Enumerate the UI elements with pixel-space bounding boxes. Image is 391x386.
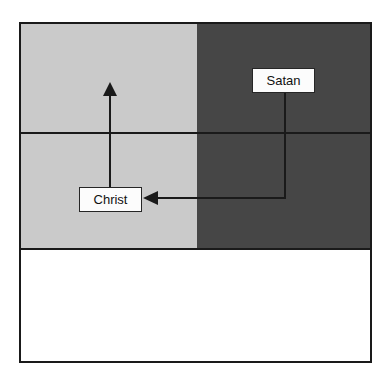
node-satan-label: Satan [267,73,301,88]
edge-satan-to-christ-horizontal [157,197,286,199]
diagram-frame: Satan Christ [19,22,372,363]
region-bottom-blank [21,250,370,361]
node-satan: Satan [252,68,315,93]
quadrant-divider-line [21,132,370,134]
node-christ-label: Christ [94,192,128,207]
edge-satan-to-christ-vertical [284,93,286,199]
edge-christ-upward-line [109,96,111,187]
arrowhead-up-icon [103,82,117,96]
diagram-canvas: Satan Christ [0,0,391,386]
colored-band [21,24,370,250]
arrowhead-left-icon [143,191,158,205]
node-christ: Christ [79,187,142,212]
